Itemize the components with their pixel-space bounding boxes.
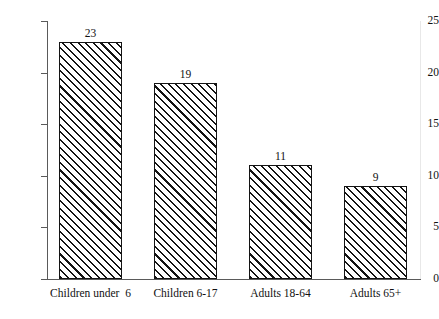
bar: [344, 186, 407, 279]
bar-value-label: 11: [249, 151, 312, 163]
x-axis-category-label: Adults 65+: [314, 288, 437, 300]
bar-value-label: 9: [344, 172, 407, 184]
x-axis-line: [47, 279, 421, 280]
bar: [59, 42, 122, 279]
y-axis-tick-mark: [41, 279, 47, 280]
bar-series: [47, 21, 421, 279]
bar-value-label: 19: [154, 69, 217, 81]
bar-value-label: 23: [59, 28, 122, 40]
bar: [249, 165, 312, 279]
bar-chart: 0510152025 2319119 Children under 6Child…: [0, 0, 439, 319]
bar: [154, 83, 217, 279]
